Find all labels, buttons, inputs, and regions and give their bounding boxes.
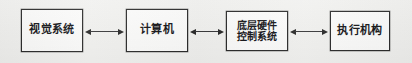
arrowhead-right-icon (118, 29, 124, 35)
diagram-node-label: 计算机 (140, 24, 174, 36)
diagram-node-low-level-hardware-control-system: 底层硬件 控制系统 (226, 11, 288, 51)
diagram-node-label-line-2: 控制系统 (237, 31, 278, 42)
diagram-connector-vision-to-computer (85, 27, 124, 36)
diagram-canvas: 视觉系统 计算机 底层硬件 控制系统 执行机构 (0, 0, 412, 63)
arrowhead-right-icon (322, 29, 328, 35)
connector-shaft (90, 31, 119, 32)
arrowhead-right-icon (218, 29, 224, 35)
arrowhead-left-icon (190, 29, 196, 35)
diagram-node-label-line-1: 底层硬件 (237, 20, 278, 31)
diagram-node-vision-system: 视觉系统 (21, 9, 83, 52)
diagram-connector-hardware-control-to-actuator (290, 27, 328, 36)
connector-shaft (295, 31, 323, 32)
arrowhead-left-icon (290, 29, 296, 35)
diagram-node-label: 执行机构 (337, 25, 382, 37)
diagram-node-computer: 计算机 (126, 9, 188, 52)
diagram-node-label: 底层硬件 控制系统 (237, 20, 278, 42)
connector-shaft (195, 31, 219, 32)
diagram-node-label: 视觉系统 (29, 24, 74, 36)
arrowhead-left-icon (85, 29, 91, 35)
diagram-node-actuator: 执行机构 (330, 11, 390, 51)
diagram-connector-computer-to-hardware-control (190, 27, 224, 36)
